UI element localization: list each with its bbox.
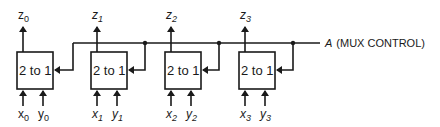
control-bus bbox=[73, 41, 320, 45]
output-label: z2 bbox=[165, 8, 177, 24]
mux-diagram: A(MUX CONTROL) 2 to 1 z0 x0 y0 2 to 1 z1… bbox=[0, 0, 440, 127]
mux-3: 2 to 1 z3 x3 y3 bbox=[239, 8, 275, 123]
output-label: z3 bbox=[239, 8, 251, 24]
input-y-label: y0 bbox=[38, 107, 49, 123]
input-x-label: x2 bbox=[165, 107, 177, 123]
mux-0: 2 to 1 z0 x0 y0 bbox=[17, 8, 53, 123]
input-x-label: x3 bbox=[239, 107, 251, 123]
input-y-label: y3 bbox=[259, 107, 271, 123]
output-label: z0 bbox=[18, 8, 29, 24]
output-label: z1 bbox=[91, 8, 103, 24]
mux-1: 2 to 1 z1 x1 y1 bbox=[91, 8, 127, 123]
mux-label: 2 to 1 bbox=[19, 63, 52, 78]
input-y-label: y1 bbox=[111, 107, 123, 123]
mux-label: 2 to 1 bbox=[93, 63, 126, 78]
input-x-label: x1 bbox=[91, 107, 103, 123]
mux-label: 2 to 1 bbox=[167, 63, 200, 78]
input-x-label: x0 bbox=[18, 107, 29, 123]
input-y-label: y2 bbox=[185, 107, 197, 123]
mux-label: 2 to 1 bbox=[241, 63, 274, 78]
mux-2: 2 to 1 z2 x2 y2 bbox=[165, 8, 201, 123]
control-label: A(MUX CONTROL) bbox=[324, 37, 425, 49]
